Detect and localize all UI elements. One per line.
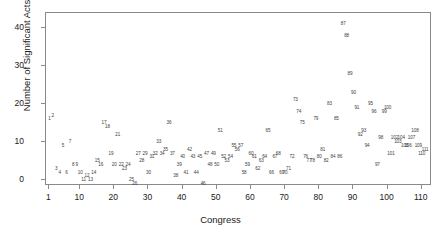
data-point: 95 [368,102,373,107]
data-point: 66 [269,170,274,175]
data-point: 64 [262,155,267,160]
data-point: 26 [132,182,137,187]
data-point: 16 [98,163,103,168]
data-point: 19 [108,151,113,156]
x-axis-label: Congress [0,214,441,225]
x-tick-label: 40 [168,192,196,202]
x-tick: 40 [182,185,183,186]
data-point: 88 [344,34,349,39]
data-point: 107 [408,136,415,141]
y-tick-mark [41,141,45,142]
data-point: 111 [422,148,429,153]
x-tick: 20 [113,185,114,186]
y-tick: 30 [33,65,34,66]
x-tick-label: 30 [133,192,161,202]
data-point: 1 [48,117,50,122]
data-point: 6 [65,170,67,175]
data-point: 46 [201,182,206,187]
data-point: 78 [310,159,315,164]
x-tick-label: 50 [202,192,230,202]
data-point: 47 [204,151,209,156]
data-point: 71 [286,167,291,172]
y-tick-mark [41,103,45,104]
y-tick-mark [41,65,45,66]
data-point: 35 [163,148,168,153]
x-tick-label: 10 [65,192,93,202]
data-point: 85 [334,117,339,122]
data-point: 59 [245,163,250,168]
x-tick-mark [318,185,319,189]
x-tick-label: 100 [373,192,401,202]
data-point: 29 [143,151,148,156]
x-tick: 10 [79,185,80,186]
scatter-plot-figure: Number of Significant Acts 1234567891011… [0,0,441,234]
data-point: 91 [354,106,359,111]
data-point: 49 [211,151,216,156]
data-point: 41 [184,170,189,175]
data-point: 2 [52,113,54,118]
data-point: 14 [91,170,96,175]
x-tick-mark [182,185,183,189]
data-point: 7 [69,140,71,145]
data-point: 9 [76,163,78,168]
data-point: 3 [55,167,57,172]
x-tick: 50 [216,185,217,186]
x-tick-mark [352,185,353,189]
y-tick-label: 40 [15,22,24,32]
data-point: 45 [197,155,202,160]
data-point: 86 [337,155,342,160]
data-point: 21 [115,132,120,137]
y-tick-mark [41,179,45,180]
data-point: 97 [375,163,380,168]
y-tick-label: 0 [19,174,24,184]
data-point: 89 [348,72,353,77]
data-point: 8 [72,163,74,168]
x-tick-mark [79,185,80,189]
x-tick-mark [421,185,422,189]
data-point: 10 [78,170,83,175]
data-point: 51 [218,129,223,134]
data-point: 18 [105,125,110,130]
data-point: 87 [341,22,346,27]
x-tick-label: 70 [270,192,298,202]
data-point: 106 [404,144,411,149]
data-point: 5 [62,144,64,149]
data-point: 94 [365,144,370,149]
data-point: 57 [238,144,243,149]
y-tick-mark [41,27,45,28]
x-tick-mark [387,185,388,189]
data-point: 62 [255,167,260,172]
x-tick-label: 110 [407,192,435,202]
data-point: 61 [252,155,257,160]
data-point: 43 [190,155,195,160]
data-point: 74 [296,110,301,115]
data-point: 75 [300,121,305,126]
data-point: 108 [411,129,418,134]
data-point: 72 [289,155,294,160]
data-point: 13 [88,178,93,183]
data-point: 50 [214,163,219,168]
x-tick-mark [216,185,217,189]
y-tick: 40 [33,27,34,28]
data-point: 80 [317,155,322,160]
x-tick-label: 20 [99,192,127,202]
data-point: 4 [58,170,60,175]
data-point: 24 [126,163,131,168]
data-point: 33 [156,140,161,145]
y-tick-label: 20 [15,98,24,108]
data-point: 54 [228,155,233,160]
data-point: 90 [351,91,356,96]
x-tick: 110 [421,185,422,186]
data-point: 36 [167,121,172,126]
data-point: 42 [187,148,192,153]
x-tick-mark [284,185,285,189]
x-tick: 30 [147,185,148,186]
x-tick-label: 80 [304,192,332,202]
data-point: 98 [378,136,383,141]
data-point: 79 [313,117,318,122]
x-tick: 1 [48,185,49,186]
data-point: 40 [180,155,185,160]
data-point: 65 [266,129,271,134]
data-point: 20 [112,163,117,168]
x-tick-label: 1 [34,192,62,202]
